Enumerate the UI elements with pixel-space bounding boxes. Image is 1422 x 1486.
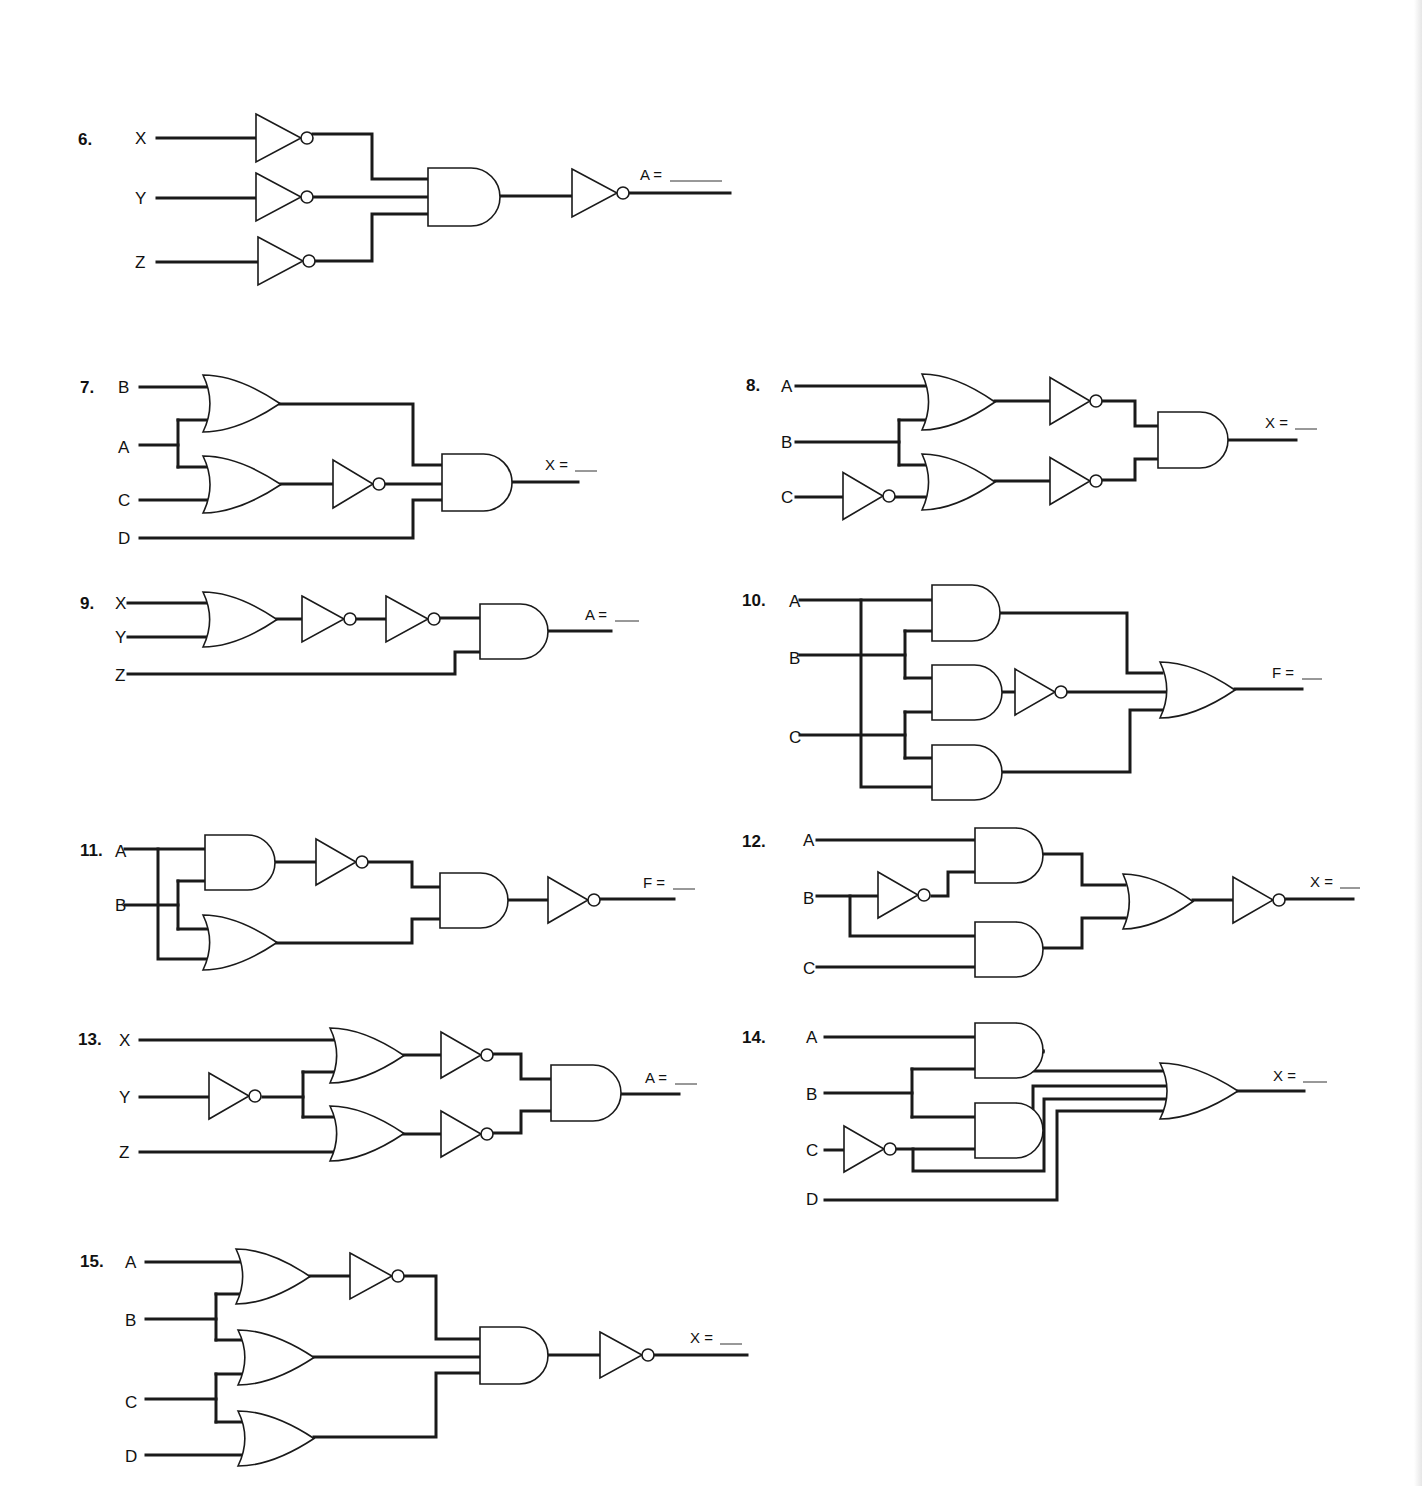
- input-label-b: B: [806, 1085, 817, 1104]
- inversion-bubble-icon: [392, 1270, 404, 1282]
- input-label-a: A: [781, 377, 793, 396]
- wire: [1101, 401, 1158, 426]
- problem-number: 12.: [742, 832, 766, 851]
- input-label-b: B: [803, 889, 814, 908]
- wire: [494, 1111, 551, 1133]
- inversion-bubble-icon: [1273, 894, 1285, 906]
- wire: [369, 862, 440, 887]
- output-label: X =: [545, 456, 568, 473]
- not-gate-icon: [333, 460, 373, 508]
- input-label-c: C: [803, 959, 815, 978]
- wire: [932, 872, 975, 896]
- not-gate-icon: [572, 169, 617, 217]
- not-gate-icon: [878, 872, 918, 918]
- not-gate-icon: [209, 1073, 249, 1119]
- inversion-bubble-icon: [883, 490, 895, 502]
- input-label-b: B: [118, 378, 129, 397]
- circuit-9: 9.XYZA =: [80, 592, 639, 685]
- or-gate-icon: [330, 1106, 404, 1161]
- output-label: F =: [1272, 664, 1294, 681]
- problem-number: 6.: [78, 130, 92, 149]
- input-label-x: X: [115, 594, 126, 613]
- or-gate-icon: [1160, 1063, 1238, 1119]
- wire: [280, 404, 442, 465]
- inversion-bubble-icon: [373, 478, 385, 490]
- not-gate-icon: [1233, 877, 1273, 923]
- wire: [277, 919, 440, 943]
- not-gate-icon: [350, 1253, 392, 1299]
- and-gate-icon: [975, 828, 1043, 883]
- or-gate-icon: [1160, 662, 1235, 718]
- input-label-d: D: [118, 529, 130, 548]
- problem-number: 10.: [742, 591, 766, 610]
- inversion-bubble-icon: [588, 894, 600, 906]
- wire: [313, 134, 428, 179]
- output-label: X =: [1265, 414, 1288, 431]
- input-label-d: D: [806, 1190, 818, 1209]
- output-label: A =: [645, 1069, 667, 1086]
- input-label-c: C: [781, 488, 793, 507]
- and-gate-icon: [480, 604, 548, 659]
- output-label: X =: [690, 1329, 713, 1346]
- inversion-bubble-icon: [642, 1349, 654, 1361]
- wire: [140, 500, 442, 538]
- wire: [494, 1054, 551, 1079]
- not-gate-icon: [441, 1111, 481, 1157]
- input-label-z: Z: [115, 666, 125, 685]
- output-label: X =: [1273, 1067, 1296, 1084]
- page-edge-shadow: [1414, 0, 1422, 1486]
- not-gate-icon: [256, 114, 301, 162]
- inversion-bubble-icon: [249, 1090, 261, 1102]
- or-gate-icon: [203, 915, 277, 970]
- wire: [1024, 1051, 1164, 1071]
- inversion-bubble-icon: [1055, 686, 1067, 698]
- input-label-c: C: [789, 728, 801, 747]
- inversion-bubble-icon: [303, 255, 315, 267]
- wire: [314, 1373, 480, 1437]
- circuit-12: 12.ABCX =: [742, 828, 1360, 978]
- wire: [315, 214, 428, 261]
- inversion-bubble-icon: [918, 889, 930, 901]
- or-gate-icon: [238, 1330, 314, 1385]
- logic-circuit-sheet: 6.XYZA =7.BACDX =8.ABCX =9.XYZA =10.ABCF…: [0, 0, 1422, 1486]
- input-label-y: Y: [115, 628, 126, 647]
- input-label-y: Y: [135, 189, 146, 208]
- inversion-bubble-icon: [617, 187, 629, 199]
- input-label-b: B: [781, 433, 792, 452]
- problem-number: 15.: [80, 1252, 104, 1271]
- and-gate-icon: [932, 745, 1002, 800]
- or-gate-icon: [203, 592, 277, 647]
- not-gate-icon: [843, 473, 883, 520]
- circuit-14: 14.ABCDX =: [742, 1023, 1327, 1209]
- not-gate-icon: [1050, 458, 1090, 505]
- input-label-d: D: [125, 1447, 137, 1466]
- inversion-bubble-icon: [884, 1143, 896, 1155]
- input-label-b: B: [789, 649, 800, 668]
- inversion-bubble-icon: [428, 613, 440, 625]
- inversion-bubble-icon: [344, 613, 356, 625]
- not-gate-icon: [316, 839, 356, 885]
- and-gate-icon: [932, 665, 1002, 720]
- circuit-15: 15.ABCDX =: [80, 1249, 747, 1466]
- input-label-a: A: [125, 1253, 137, 1272]
- output-label: A =: [585, 606, 607, 623]
- or-gate-icon: [922, 454, 995, 510]
- and-gate-icon: [205, 835, 275, 890]
- problem-number: 7.: [80, 378, 94, 397]
- or-gate-icon: [238, 1411, 314, 1466]
- not-gate-icon: [1050, 378, 1090, 425]
- input-label-a: A: [115, 842, 127, 861]
- wire: [1002, 710, 1162, 772]
- problem-number: 13.: [78, 1030, 102, 1049]
- and-gate-icon: [932, 585, 1000, 641]
- not-gate-icon: [441, 1032, 481, 1078]
- and-gate-icon: [551, 1065, 621, 1121]
- inversion-bubble-icon: [1090, 475, 1102, 487]
- input-label-y: Y: [119, 1088, 130, 1107]
- output-label: X =: [1310, 873, 1333, 890]
- input-label-a: A: [806, 1028, 818, 1047]
- not-gate-icon: [844, 1126, 884, 1172]
- wire: [1043, 918, 1125, 948]
- not-gate-icon: [1015, 669, 1055, 715]
- input-label-x: X: [119, 1031, 130, 1050]
